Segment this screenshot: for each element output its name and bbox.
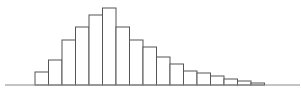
histogram-bar bbox=[76, 27, 90, 85]
histogram-chart bbox=[0, 0, 301, 95]
histogram-bar bbox=[184, 71, 198, 85]
histogram-bar bbox=[224, 79, 238, 85]
histogram-bar bbox=[211, 76, 225, 85]
histogram-bars bbox=[35, 8, 265, 85]
histogram-bar bbox=[49, 60, 63, 85]
histogram-bar bbox=[116, 27, 130, 85]
histogram-bar bbox=[103, 8, 117, 85]
histogram-bar bbox=[143, 47, 157, 85]
histogram-bar bbox=[170, 64, 184, 85]
histogram-bar bbox=[197, 73, 211, 85]
histogram-bar bbox=[238, 81, 252, 85]
histogram-bar bbox=[35, 72, 49, 85]
histogram-bar bbox=[89, 15, 103, 85]
histogram-bar bbox=[130, 40, 144, 85]
histogram-bar bbox=[157, 57, 171, 85]
histogram-bar bbox=[62, 40, 76, 85]
